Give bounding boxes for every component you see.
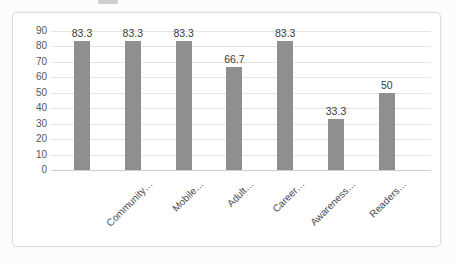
y-axis-tick-label: 50 (17, 87, 47, 99)
bar (379, 93, 395, 170)
bar (74, 41, 90, 170)
y-axis-tick-label: 0 (17, 164, 47, 176)
bar (277, 41, 293, 170)
y-axis-tick-label: 60 (17, 71, 47, 83)
bar-value-label: 33.3 (316, 105, 356, 117)
y-axis-tick-label: 40 (17, 102, 47, 114)
bar-value-label: 50 (367, 79, 407, 91)
y-axis-tick-label: 90 (17, 25, 47, 37)
gridline (51, 31, 431, 32)
y-axis-tick-label: 20 (17, 133, 47, 145)
y-axis-tick-label: 30 (17, 118, 47, 130)
bar (125, 41, 141, 170)
bar-value-label: 66.7 (214, 53, 254, 65)
photo-artifact-smudge (98, 0, 118, 4)
bar-chart: 0102030405060708090 83.383.383.366.783.3… (12, 12, 441, 247)
bar-value-label: 83.3 (62, 27, 102, 39)
bar (328, 119, 344, 170)
bar (176, 41, 192, 170)
gridline (51, 46, 431, 47)
bar (226, 67, 242, 170)
y-axis-tick-label: 70 (17, 56, 47, 68)
screenshot-stage: 0102030405060708090 83.383.383.366.783.3… (0, 0, 456, 264)
x-axis-line (51, 170, 431, 171)
bar-value-label: 83.3 (265, 27, 305, 39)
y-axis-tick-label: 10 (17, 149, 47, 161)
bar-value-label: 83.3 (113, 27, 153, 39)
y-axis-tick-label: 80 (17, 40, 47, 52)
bar-value-label: 83.3 (164, 27, 204, 39)
